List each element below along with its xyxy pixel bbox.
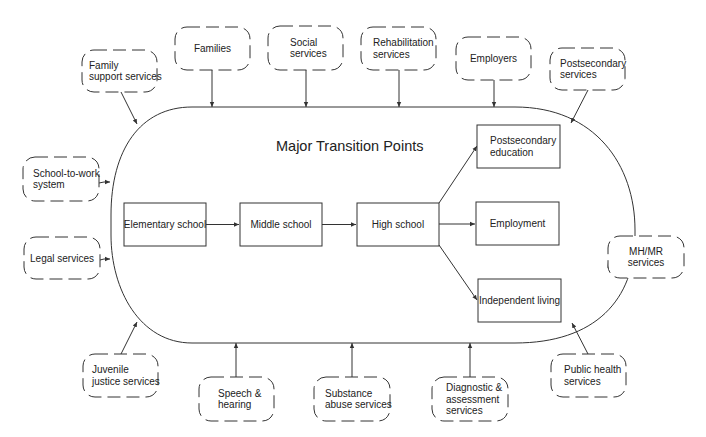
service-diagnostic: Diagnostic &assessmentservices <box>432 377 508 421</box>
link-high-to-postsec-ed <box>439 146 477 203</box>
connector-school-to-work <box>99 182 110 183</box>
stage-label: Middle school <box>250 219 311 230</box>
service-postsec-services: Postsecondaryservices <box>550 48 626 90</box>
stage-independent: Independent living <box>478 279 561 322</box>
connector-postsec-services <box>571 90 588 123</box>
connector-legal <box>100 259 110 260</box>
service-label: Employers <box>470 53 517 64</box>
service-juvenile: Juvenilejustice services <box>83 354 160 397</box>
service-speech: Speech &hearing <box>199 377 274 421</box>
service-families: Families <box>175 27 250 70</box>
service-family-support: Familysupport services <box>82 50 162 92</box>
service-label: Families <box>194 43 231 54</box>
stage-high: High school <box>357 203 439 246</box>
service-school-to-work: School-to-worksystem <box>23 157 101 201</box>
diagram-title: Major Transition Points <box>276 138 423 154</box>
service-social: Socialservices <box>268 26 343 70</box>
stage-postsec-ed: Postsecondaryeducation <box>477 125 560 168</box>
service-employers: Employers <box>456 37 531 80</box>
service-label: MH/MRservices <box>628 246 665 269</box>
service-label: Legal services <box>30 253 94 264</box>
link-high-to-independent <box>439 245 477 300</box>
stage-label: Independent living <box>479 295 560 306</box>
stage-label: Employment <box>490 218 546 229</box>
transition-diagram: Major Transition Points Elementary schoo… <box>0 0 706 437</box>
service-substance: Substanceabuse services <box>314 377 392 421</box>
service-public-health: Public healthservices <box>551 354 626 397</box>
stage-label: High school <box>372 219 424 230</box>
stage-elementary: Elementary school <box>124 203 206 246</box>
stage-middle: Middle school <box>240 203 322 246</box>
service-legal: Legal services <box>24 237 100 279</box>
service-rehab: Rehabilitationservices <box>361 27 436 70</box>
connector-juvenile <box>121 322 137 354</box>
stage-label: Elementary school <box>124 219 206 230</box>
service-mhmr: MH/MRservices <box>608 236 684 278</box>
stage-employment: Employment <box>476 202 559 245</box>
connector-family-support <box>121 92 137 124</box>
